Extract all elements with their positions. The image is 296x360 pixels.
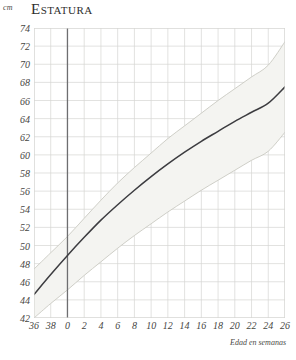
y-axis-tick: 68 [4, 77, 30, 88]
y-axis-tick: 62 [4, 131, 30, 142]
y-axis-tick: 50 [4, 240, 30, 251]
x-axis-tick: 10 [146, 320, 156, 331]
x-axis-tick: 8 [132, 320, 137, 331]
x-axis-tick: 36 [29, 320, 39, 331]
y-axis-tick: 44 [4, 294, 30, 305]
x-axis-tick: 6 [115, 320, 120, 331]
plot-area [34, 28, 285, 318]
plot-svg [34, 28, 285, 318]
x-axis-tick: 12 [163, 320, 173, 331]
x-axis-tick: 2 [82, 320, 87, 331]
x-axis-tick: 26 [280, 320, 290, 331]
growth-chart: cm Estatura 7472706866646260585654525048… [0, 0, 296, 360]
y-axis-tick: 70 [4, 59, 30, 70]
y-axis-tick: 74 [4, 23, 30, 34]
x-axis-tick: 20 [230, 320, 240, 331]
x-axis-tick: 24 [263, 320, 273, 331]
y-axis-labels: 7472706866646260585654525048464442 [0, 28, 30, 318]
x-axis-tick: 16 [196, 320, 206, 331]
y-axis-tick: 48 [4, 258, 30, 269]
y-axis-tick: 54 [4, 204, 30, 215]
unit-label: cm [3, 3, 13, 12]
y-axis-tick: 66 [4, 95, 30, 106]
x-axis-tick: 38 [46, 320, 56, 331]
x-axis-caption: Edad en semanas [230, 338, 286, 347]
x-axis-tick: 18 [213, 320, 223, 331]
x-axis-tick: 0 [65, 320, 70, 331]
y-axis-tick: 52 [4, 222, 30, 233]
y-axis-tick: 56 [4, 186, 30, 197]
band-fill-area [34, 42, 285, 318]
y-axis-tick: 42 [4, 313, 30, 324]
x-axis-tick: 14 [180, 320, 190, 331]
x-axis-tick: 4 [98, 320, 103, 331]
y-axis-tick: 72 [4, 41, 30, 52]
x-axis-tick: 22 [247, 320, 257, 331]
page-title: Estatura [31, 0, 93, 18]
y-axis-tick: 64 [4, 113, 30, 124]
y-axis-tick: 60 [4, 149, 30, 160]
x-axis-labels: 363802468101214161820222426 [34, 320, 285, 336]
y-axis-tick: 58 [4, 168, 30, 179]
y-axis-tick: 46 [4, 276, 30, 287]
